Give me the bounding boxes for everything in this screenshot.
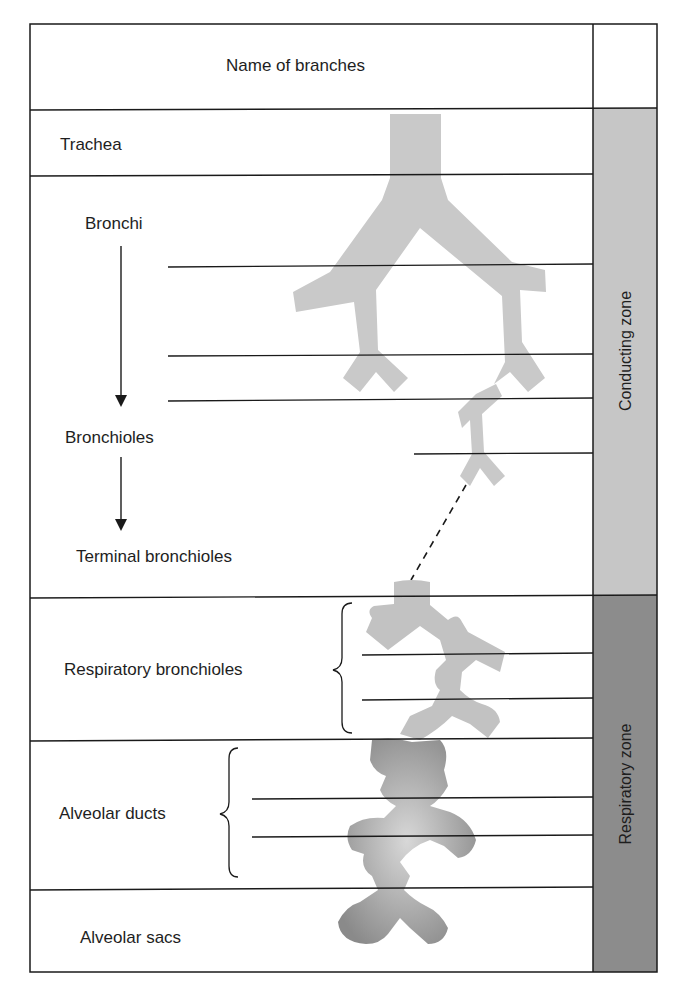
curly-brace-icon: [333, 603, 352, 733]
curly-brace-icon: [220, 748, 238, 877]
conducting-airway-tree: [293, 114, 546, 486]
row-label-respiratory-bronchioles: Respiratory bronchioles: [64, 660, 243, 680]
row-label-alveolar-sacs: Alveolar sacs: [80, 928, 181, 948]
dashed-connector: [411, 485, 466, 580]
down-arrow-icon: [115, 457, 127, 531]
row-label-terminal-bronchioles: Terminal bronchioles: [76, 547, 232, 567]
respiratory-zone-label: Respiratory zone: [617, 724, 635, 845]
bronchi-shape: [293, 178, 546, 392]
respiratory-airway-shape: [366, 580, 505, 740]
diagram-frame: [30, 24, 657, 972]
row-label-bronchioles: Bronchioles: [65, 428, 154, 448]
trachea-shape: [390, 114, 441, 180]
row-label-trachea: Trachea: [60, 135, 122, 155]
header-title: Name of branches: [226, 56, 365, 76]
row-label-bronchi: Bronchi: [85, 214, 143, 234]
conducting-zone-label: Conducting zone: [617, 291, 635, 411]
row-label-alveolar-ducts: Alveolar ducts: [59, 804, 166, 824]
down-arrow-icon: [115, 246, 127, 407]
alveolar-shape: [338, 738, 476, 944]
